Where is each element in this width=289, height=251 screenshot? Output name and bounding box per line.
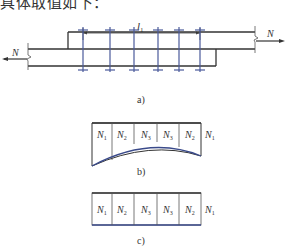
- caption-c: c): [137, 235, 145, 247]
- force-right-arrow: N: [256, 28, 285, 43]
- figure-b-labels: N1 N2 N3 N3 N2 N1: [96, 129, 215, 141]
- force-left-arrow: N: [2, 47, 27, 61]
- caption-b: b): [137, 166, 145, 178]
- svg-text:N: N: [11, 47, 20, 58]
- svg-text:N2: N2: [184, 129, 195, 141]
- caption-a: a): [137, 94, 145, 106]
- svg-text:N2: N2: [116, 129, 127, 141]
- svg-text:N3: N3: [162, 204, 173, 216]
- figure-b: N1 N2 N3 N3 N2 N1 b): [92, 123, 215, 178]
- svg-text:N2: N2: [116, 204, 127, 216]
- bolted-joint-diagram: l1 N: [0, 0, 289, 251]
- svg-text:N1: N1: [204, 129, 215, 141]
- svg-text:N1: N1: [96, 204, 107, 216]
- svg-text:N1: N1: [204, 204, 215, 216]
- svg-text:N3: N3: [140, 204, 151, 216]
- figure-c-labels: N1 N2 N3 N3 N2 N1: [96, 204, 215, 216]
- lower-plate: [28, 49, 216, 66]
- svg-text:N: N: [266, 28, 275, 39]
- break-mark-right: [254, 26, 258, 53]
- figure-c: N1 N2 N3 N3 N2 N1 c): [92, 193, 215, 247]
- svg-text:N3: N3: [140, 129, 151, 141]
- upper-plate: [68, 32, 255, 49]
- svg-text:N2: N2: [184, 204, 195, 216]
- figure-a: l1 N: [2, 20, 285, 106]
- svg-text:N3: N3: [162, 129, 173, 141]
- svg-text:N1: N1: [96, 129, 107, 141]
